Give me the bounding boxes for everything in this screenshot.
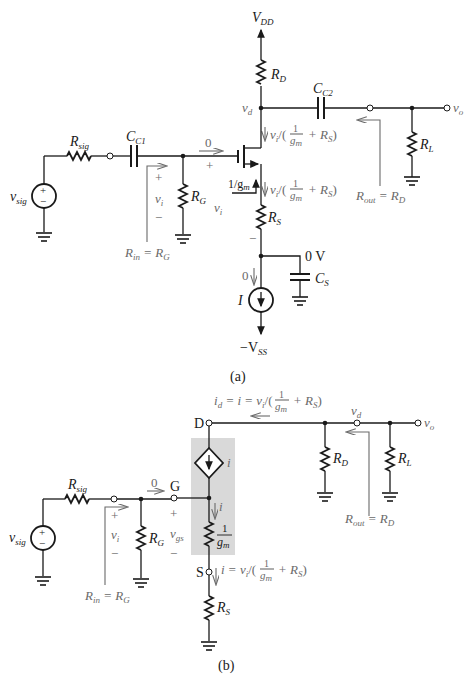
vd-label: vd	[242, 100, 253, 117]
vo-terminal	[444, 105, 450, 111]
resistor-rl: RL	[404, 108, 434, 185]
svg-text:gm: gm	[275, 400, 288, 414]
drain-current-annotation: vi/( 1 gm + RS)	[265, 123, 337, 148]
svg-text:+ RS): + RS)	[278, 562, 307, 579]
vo-label-b: vo	[424, 415, 435, 432]
cc1-label: CC1	[126, 129, 146, 146]
s-node	[206, 569, 212, 575]
svg-text:−: −	[170, 546, 177, 561]
source-current-annotation: vi/( 1 gm + RS)	[265, 178, 337, 203]
s-current-expression: i = vi/( 1 gm + RS)	[221, 558, 307, 583]
vd-label-b: vd	[351, 403, 362, 420]
rs-minus: −	[249, 231, 256, 246]
rl-label: RL	[419, 137, 434, 154]
ground-icon	[404, 177, 420, 185]
cs-label: CS	[315, 271, 329, 288]
ground-icon	[317, 493, 333, 501]
svg-text:+: +	[111, 508, 118, 523]
ground-icon	[382, 493, 398, 501]
rout-indicator-b: Rout = RD	[344, 432, 395, 528]
cc2-label: CC2	[313, 81, 333, 98]
vss-label: −VSS	[240, 340, 268, 357]
rout-indicator: Rout = RD	[355, 120, 406, 205]
capacitor-cc1: CC1	[126, 129, 146, 167]
svg-text:i: i	[227, 455, 231, 470]
svg-text:+: +	[170, 506, 177, 521]
g-node-label: G	[170, 479, 180, 494]
gate-current-label: 0	[205, 135, 212, 150]
source-zero-current: 0	[242, 268, 249, 283]
one-over-gm-annotation: 1/gm	[228, 177, 256, 193]
ground-icon	[292, 297, 308, 305]
input-terminal-b	[111, 496, 117, 502]
zero-volt-label: 0 V	[305, 249, 325, 264]
svg-text:1: 1	[264, 558, 269, 569]
svg-text:Rout = RD: Rout = RD	[344, 511, 395, 528]
resistor-rs-b: RS	[201, 575, 231, 650]
vgs-label: vgs	[170, 526, 184, 543]
resistor-rsig: Rsig	[67, 134, 91, 160]
ground-icon	[36, 233, 52, 241]
svg-text:vi/(: vi/(	[270, 127, 286, 144]
svg-text:+ RS): + RS)	[293, 393, 322, 410]
svg-text:vi/(: vi/(	[270, 182, 286, 199]
vdd-supply: VDD	[252, 10, 274, 108]
svg-text:RS: RS	[216, 600, 231, 617]
rg-label: RG	[190, 189, 207, 206]
svg-text:vi: vi	[111, 527, 120, 544]
rout-label: Rout = RD	[355, 188, 406, 205]
svg-text:−: −	[40, 195, 46, 207]
svg-text:−: −	[39, 537, 45, 549]
ground-icon	[133, 579, 149, 587]
d-node-label: D	[194, 416, 204, 431]
vd-terminal	[354, 420, 360, 426]
rin-indicator-b: Rin = RG	[84, 507, 130, 605]
svg-text:gm: gm	[290, 189, 303, 203]
resistor-rl-b: RL	[382, 423, 412, 501]
svg-text:1: 1	[293, 123, 298, 134]
input-terminal	[107, 153, 113, 159]
vi-gate-label: vi	[214, 200, 223, 217]
i-source-label: I	[237, 293, 244, 308]
svg-text:Rin = RG: Rin = RG	[84, 588, 130, 605]
svg-text:+ RS): + RS)	[308, 182, 337, 199]
signal-source: + − vsig	[10, 156, 56, 241]
d-node	[206, 420, 212, 426]
rd-label: RD	[270, 67, 287, 84]
svg-text:vsig: vsig	[9, 530, 26, 547]
svg-text:i = vi/(: i = vi/(	[221, 562, 256, 579]
gate-plus: +	[206, 158, 213, 173]
svg-text:−: −	[111, 546, 118, 561]
vi-label: vi	[155, 191, 164, 208]
resistor-rsig-b: Rsig	[65, 477, 89, 503]
svg-text:1/gm: 1/gm	[228, 177, 250, 192]
svg-text:1: 1	[222, 522, 228, 534]
circuit-diagram: VDD RD vd CC2 vo RL	[0, 0, 476, 679]
capacitor-cs: CS	[290, 271, 329, 305]
vo-label: vo	[453, 100, 464, 117]
s-node-label: S	[196, 565, 204, 580]
rin-label: Rin = RG	[124, 245, 170, 262]
vdd-label: VDD	[252, 10, 274, 27]
svg-text:RL: RL	[397, 451, 412, 468]
capacitor-cc2: CC2	[313, 81, 333, 119]
id-expression: id = i = vi/( 1 gm + RS)	[214, 389, 322, 416]
svg-text:+ RS): + RS)	[308, 127, 337, 144]
caption-b: (b)	[218, 658, 235, 674]
output-terminal-open	[367, 105, 373, 111]
svg-text:1: 1	[293, 178, 298, 189]
resistor-rg: RG	[175, 156, 207, 243]
g-node	[171, 495, 177, 501]
svg-text:RD: RD	[332, 451, 349, 468]
figure-a: VDD RD vd CC2 vo RL	[10, 10, 464, 385]
signal-source-b: + − vsig	[9, 499, 55, 585]
vo-terminal-b	[415, 420, 421, 426]
svg-text:RG: RG	[148, 531, 165, 548]
svg-text:Rsig: Rsig	[67, 477, 88, 494]
rsig-label: Rsig	[69, 134, 90, 151]
svg-text:i: i	[219, 499, 223, 514]
resistor-rd: RD	[255, 60, 287, 86]
svg-text:gm: gm	[260, 569, 273, 583]
resistor-rg-b: RG	[133, 499, 165, 587]
svg-text:−: −	[155, 210, 162, 225]
